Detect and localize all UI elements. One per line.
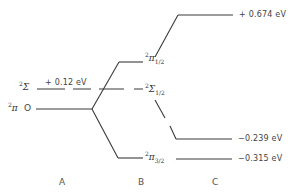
connector-pi-to-pi32 — [92, 109, 118, 158]
label-b-pi32: 2π3/2 — [145, 150, 164, 164]
symbol: π — [12, 103, 18, 113]
label-a-pi: 2π — [8, 101, 18, 113]
energy-label-c-mid: −0.239 eV — [238, 134, 282, 143]
energy-label-a-sigma: + 0.12 eV — [45, 78, 87, 87]
connector-sigma12-to-c-a — [155, 100, 165, 118]
symbol: Σ — [23, 82, 29, 92]
column-label-a: A — [59, 177, 65, 187]
connector-sigma12-to-c-b — [170, 126, 176, 139]
label-a-sigma: 2Σ — [19, 80, 29, 92]
subscript: 1/2 — [155, 58, 165, 65]
energy-label-a-pi: O — [24, 103, 31, 113]
subscript: 1/2 — [155, 89, 165, 96]
energy-diagram-lines — [0, 0, 297, 196]
connector-pi-to-pi12 — [92, 62, 119, 109]
column-label-b: B — [138, 177, 144, 187]
energy-label-c-bottom: −0.315 eV — [238, 154, 282, 163]
label-b-pi12: 2π1/2 — [145, 51, 164, 65]
label-b-sigma12: 2Σ1/2 — [145, 82, 165, 96]
energy-label-c-top: + 0.674 eV — [239, 10, 286, 19]
column-label-c: C — [212, 177, 218, 187]
subscript: 3/2 — [155, 157, 165, 164]
